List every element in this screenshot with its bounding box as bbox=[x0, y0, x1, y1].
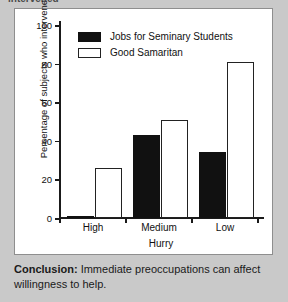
x-label-high: High bbox=[83, 222, 104, 233]
legend-label-seminary: Jobs for Seminary Students bbox=[110, 31, 233, 42]
x-axis-title: Hurry bbox=[149, 238, 173, 249]
bar-low-seminary bbox=[199, 152, 226, 218]
legend-swatch-seminary bbox=[78, 32, 101, 42]
bar-low-samaritan bbox=[227, 62, 254, 218]
legend-item-samaritan: Good Samaritan bbox=[78, 47, 233, 58]
x-tick-0 bbox=[59, 218, 61, 223]
bar-medium-samaritan bbox=[161, 120, 188, 218]
x-tick-3 bbox=[257, 218, 259, 223]
x-label-low: Low bbox=[216, 222, 234, 233]
x-label-medium: Medium bbox=[141, 222, 177, 233]
bar-medium-seminary bbox=[133, 135, 160, 218]
legend-swatch-samaritan bbox=[78, 48, 101, 58]
conclusion-text: Conclusion: Immediate preoccupations can… bbox=[14, 262, 276, 292]
bar-high-samaritan bbox=[95, 168, 122, 218]
bar-high-seminary bbox=[67, 216, 94, 218]
chart-panel: Percentage of subjects who intervened 0 … bbox=[14, 8, 273, 255]
legend-label-samaritan: Good Samaritan bbox=[110, 47, 183, 58]
chart-legend: Jobs for Seminary Students Good Samarita… bbox=[78, 31, 233, 63]
x-tick-1 bbox=[125, 218, 127, 223]
x-tick-2 bbox=[191, 218, 193, 223]
conclusion-label: Conclusion: bbox=[14, 263, 78, 275]
legend-item-seminary: Jobs for Seminary Students bbox=[78, 31, 233, 42]
y-axis-line bbox=[59, 21, 61, 218]
